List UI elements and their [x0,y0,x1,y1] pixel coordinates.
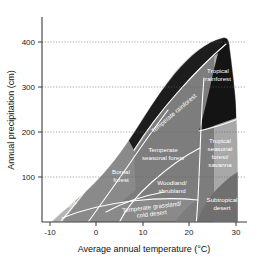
biome-label-boreal-forest-line2: forest [113,176,129,183]
x-axis-ticks [50,222,236,226]
biome-label-temperate-seasonal-forest-line2: seasonal forest [142,154,184,161]
x-axis-title: Average annual temperature (°C) [78,244,211,254]
biome-regions [40,20,250,225]
biome-label-woodland-shrubland-line1: Woodland/ [157,179,187,186]
x-tick-label-20: 20 [185,228,194,237]
biome-label-tropical-rainforest-line2: rainforest [205,75,231,82]
biome-label-woodland-shrubland-line2: shrubland [158,187,186,194]
x-tick-label-0: 0 [94,228,99,237]
biome-label-subtropical-desert-line1: Subtropical [207,196,238,203]
x-tick-label-30: 30 [232,228,241,237]
biome-label-temperate-seasonal-forest-line1: Temperate [148,146,178,153]
x-tick-label-10: 10 [139,228,148,237]
whittaker-biome-chart: 400 300 200 100 -10 0 10 20 30 Average a… [0,0,257,258]
biome-label-subtropical-desert-line2: desert [213,204,230,211]
biome-label-tropical-rainforest-line1: Tropical [207,67,229,74]
y-tick-label-200: 200 [22,128,36,137]
y-tick-label-300: 300 [22,83,36,92]
x-tick-label-neg10: -10 [44,228,56,237]
biome-label-tropical-seasonal-line2: seasonal [208,145,233,152]
biome-label-boreal-forest-line1: Boreal [112,168,130,175]
y-tick-label-400: 400 [22,38,36,47]
chart-svg: 400 300 200 100 -10 0 10 20 30 Average a… [0,0,257,258]
biome-label-tropical-seasonal-line4: savanna [208,161,232,168]
y-tick-label-100: 100 [22,173,36,182]
y-axis-title: Annual precipitation (cm) [6,70,16,170]
biome-label-tropical-seasonal-line3: forest/ [211,153,228,160]
y-axis-ticks [38,42,42,177]
biome-label-tropical-seasonal-line1: Tropical [209,137,231,144]
